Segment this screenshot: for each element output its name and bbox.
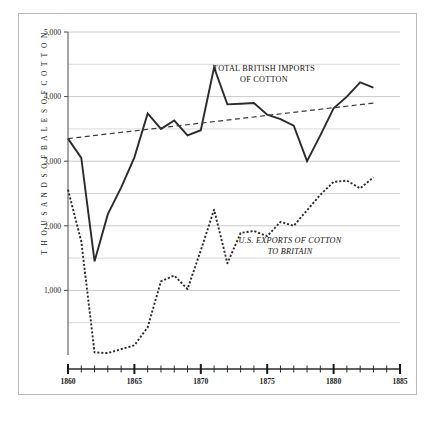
x-tick-label: 1885: [392, 377, 407, 386]
y-axis-tick-marks: [64, 32, 68, 290]
y-tick-label: 5,000: [44, 28, 61, 37]
annotation-british-imports-line1: TOTAL BRITISH IMPORTS: [213, 64, 315, 73]
x-tick-label: 1870: [193, 377, 208, 386]
y-tick-label: 3,000: [44, 157, 61, 166]
annotation-us-exports-line2: TO BRITAIN: [268, 247, 313, 256]
gridlines: [68, 32, 400, 323]
chart-canvas: 1,0002,0003,0004,0005,000 18601865187018…: [0, 0, 432, 424]
y-tick-label: 2,000: [44, 222, 61, 231]
x-tick-label: 1875: [260, 377, 275, 386]
x-axis-tick-labels: 186018651870187518801885: [60, 377, 407, 386]
y-tick-label: 1,000: [44, 286, 61, 295]
chart-figure: T H O U S A N D S O F B A L E S O F C O …: [0, 0, 432, 424]
annotation-british-imports-line2: OF COTTON: [240, 75, 288, 84]
x-tick-label: 1865: [127, 377, 142, 386]
annotation-us-exports-line1: U.S. EXPORTS OF COTTON: [239, 236, 342, 245]
y-axis-tick-labels: 1,0002,0003,0004,0005,000: [44, 28, 61, 295]
y-tick-label: 4,000: [44, 92, 61, 101]
x-tick-label: 1860: [60, 377, 75, 386]
x-tick-label: 1880: [326, 377, 341, 386]
